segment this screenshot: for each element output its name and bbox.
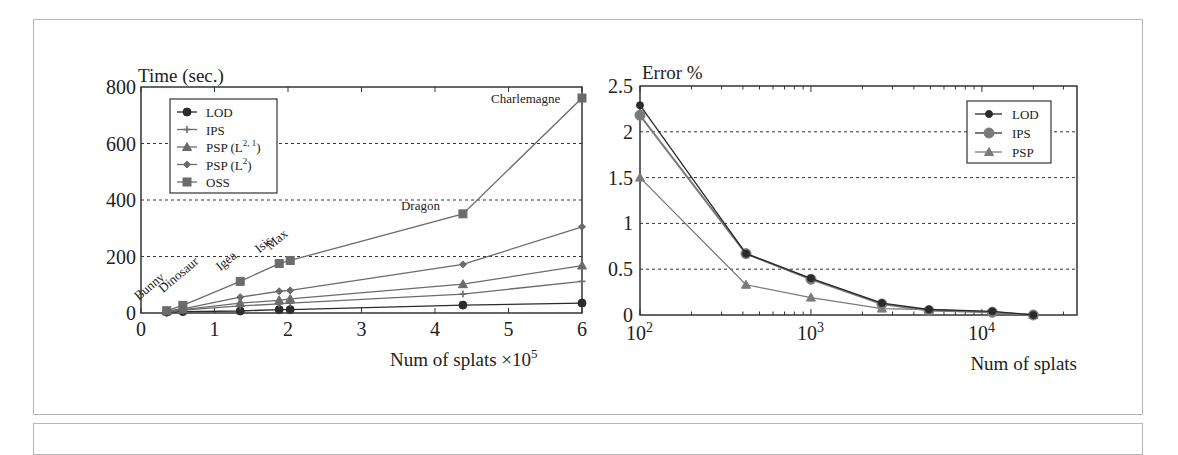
x-tick-label: 4	[430, 318, 440, 340]
legend-label: LOD	[206, 105, 233, 120]
y-tick-label: 600	[106, 133, 136, 155]
y-tick-label: 400	[106, 189, 136, 211]
legend-label: OSS	[206, 175, 230, 190]
y-tick-label: 1	[623, 212, 633, 234]
dataset-annotation: Igea	[213, 248, 240, 274]
y-tick-label: 0	[126, 302, 136, 324]
y-tick-label: 800	[106, 76, 136, 98]
dataset-annotation: Dragon	[401, 198, 440, 213]
x-tick-label: 3	[357, 318, 367, 340]
legend-label: IPS	[206, 123, 225, 138]
y-tick-label: 2.5	[608, 75, 633, 97]
x-tick-label: 1	[210, 318, 220, 340]
x-axis-label: Num of splats ×105	[390, 346, 538, 370]
series-psp	[636, 173, 1038, 318]
y-tick-label: 0.5	[608, 258, 633, 280]
x-axis-label: Num of splats	[970, 353, 1077, 374]
y-tick-label: 200	[106, 246, 136, 268]
y-tick-label: 1.5	[608, 167, 633, 189]
dataset-annotation: Dinosaur	[155, 253, 202, 296]
x-tick-label: 5	[504, 318, 514, 340]
series-ips	[163, 278, 585, 315]
x-tick-label: 6	[577, 318, 587, 340]
x-tick-label: 2	[283, 318, 293, 340]
time-chart-legend: LODIPSPSP (L2, 1)PSP (L2)OSS	[170, 99, 277, 193]
legend-label: IPS	[1012, 126, 1031, 141]
legend-label: LOD	[1012, 107, 1039, 122]
y-axis-label: Time (sec.)	[138, 65, 224, 87]
y-tick-label: 2	[623, 121, 633, 143]
y-tick-label: 0	[623, 304, 633, 326]
x-tick-label: 0	[136, 318, 146, 340]
error-chart-legend: LODIPSPSP	[967, 101, 1051, 163]
y-axis-label: Error %	[642, 62, 703, 83]
dataset-annotation: Charlemagne	[491, 91, 561, 106]
x-tick-label: 104	[968, 320, 995, 344]
time-chart-plot: 01234560200400600800Time (sec.)Num of sp…	[106, 65, 587, 370]
x-tick-label: 103	[797, 320, 824, 344]
error-chart-plot: 10210310400.511.522.5Error %Num of splat…	[608, 62, 1077, 374]
legend-label: PSP	[1012, 145, 1034, 160]
